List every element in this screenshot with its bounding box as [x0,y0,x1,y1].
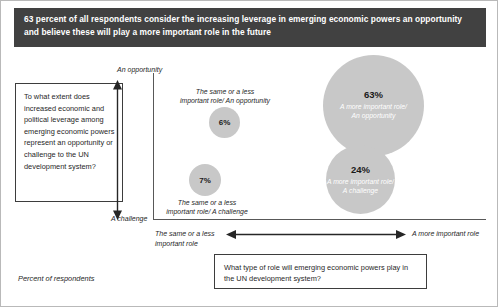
plot-axis-horizontal [153,219,486,220]
horizontal-double-arrow-icon [226,229,406,240]
slide-canvas: 63 percent of all respondents consider t… [0,0,498,307]
bubble-24[interactable]: 24% A more important role/ A challenge [326,145,395,214]
bubble-63[interactable]: 63% A more important role/ An opportunit… [323,55,424,156]
bubble-value: 63% [364,89,383,100]
footer-note: Percent of respondents [18,274,94,283]
question-box-left: To what extent does increased economic a… [15,83,123,202]
axis-label-y-bottom: A challenge [111,214,147,224]
bubble-6-label: The same or a less important role/ An op… [169,87,281,106]
question-left-text: To what extent does increased economic a… [24,91,115,172]
vertical-double-arrow-icon [112,80,123,220]
axis-label-y-top: An opportunity [117,65,162,75]
question-bottom-text: What type of role will emerging economic… [224,262,417,285]
bubble-7[interactable]: 7% [189,164,221,196]
bubble-7-label: The same or a less important role/ A cha… [151,198,263,217]
bubble-value: 6% [219,118,231,127]
axis-label-x-right: A more important role [412,229,479,239]
question-box-bottom: What type of role will emerging economic… [214,254,427,289]
page-title: 63 percent of all respondents consider t… [24,13,476,38]
bubble-value: 7% [199,176,211,185]
bubble-6[interactable]: 6% [209,107,240,138]
axis-label-x-left: The same or a less important role [155,229,225,248]
bubble-label: A more important role/ An opportunity [340,102,407,120]
header-banner: 63 percent of all respondents consider t… [14,8,486,47]
bubble-label: A more important role/ A challenge [327,177,394,195]
bubble-value: 24% [351,164,370,175]
